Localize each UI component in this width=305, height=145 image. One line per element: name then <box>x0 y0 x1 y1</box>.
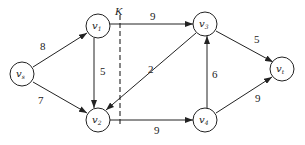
node-v2: v2 <box>86 108 110 132</box>
edge-v4-vt <box>216 77 272 113</box>
edge-v3-vt <box>216 31 273 62</box>
weight-vs-v2: 7 <box>38 94 44 106</box>
node-v3: v3 <box>193 12 217 36</box>
cut-label: K <box>114 5 123 17</box>
edges: 8 7 5 9 2 9 6 5 9 <box>33 10 273 136</box>
weight-v4-v3: 6 <box>212 68 218 80</box>
node-vt: vt <box>270 57 294 81</box>
weight-v1-v3: 9 <box>150 10 156 22</box>
weight-vs-v1: 8 <box>40 40 46 52</box>
weight-v2-v4: 9 <box>154 124 160 136</box>
node-v1: v1 <box>86 14 110 38</box>
node-v4: v4 <box>193 108 217 132</box>
weight-v1-v2: 5 <box>100 65 106 77</box>
weight-v4-vt: 9 <box>255 92 261 104</box>
flow-network-diagram: 8 7 5 9 2 9 6 5 9 K vs v1 v2 v3 <box>0 0 305 145</box>
weight-v3-v2: 2 <box>148 63 154 75</box>
weight-v3-vt: 5 <box>254 33 260 45</box>
node-vs: vs <box>10 62 34 86</box>
